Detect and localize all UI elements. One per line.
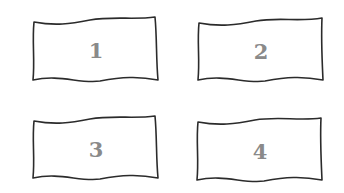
box-4: 4 (197, 118, 322, 182)
diagram-canvas: 1 2 3 4 (0, 0, 344, 193)
box-1-label: 1 (89, 38, 104, 63)
box-3-label: 3 (89, 137, 104, 162)
box-2-label: 2 (254, 39, 269, 64)
box-4-label: 4 (253, 139, 268, 164)
box-1: 1 (33, 17, 158, 82)
box-3: 3 (33, 116, 158, 180)
box-2: 2 (198, 18, 323, 82)
